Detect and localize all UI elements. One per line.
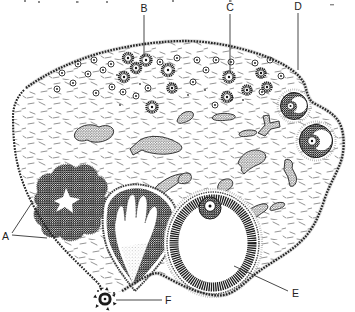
primordial-follicle-nucleus <box>110 63 112 65</box>
primordial-follicle-nucleus <box>93 59 95 61</box>
label-c: C <box>226 1 234 13</box>
primordial-follicle-nucleus <box>147 87 149 89</box>
primordial-follicle-nucleus <box>111 86 113 88</box>
primordial-follicle-nucleus <box>254 62 256 64</box>
cropped-text-fragments <box>24 0 334 5</box>
primordial-follicle-nucleus <box>135 95 137 97</box>
primary-follicle-nucleus <box>171 87 173 89</box>
primary-follicle-nucleus <box>123 76 125 78</box>
primary-follicle-nucleus <box>246 89 248 91</box>
graafian-oocyte-nucleus <box>209 205 212 208</box>
stroma-granule <box>116 74 118 76</box>
label-b: B <box>140 2 147 14</box>
label-d: D <box>294 0 302 12</box>
primordial-follicle-nucleus <box>77 63 79 65</box>
stroma-granule <box>139 83 141 85</box>
primordial-follicle-nucleus <box>214 104 216 106</box>
primary-follicle-nucleus <box>226 96 228 98</box>
primordial-follicle-nucleus <box>215 59 217 61</box>
stigma-bead <box>97 290 99 292</box>
primordial-follicle-nucleus <box>95 92 97 94</box>
stroma-granule <box>187 94 189 96</box>
primordial-follicle-nucleus <box>102 69 104 71</box>
primordial-follicle-nucleus <box>176 57 178 59</box>
stigma-bead <box>113 292 115 294</box>
label-e: E <box>292 287 299 299</box>
primary-follicle-nucleus <box>228 76 230 78</box>
primary-follicle-nucleus <box>145 59 147 61</box>
primordial-follicle-nucleus <box>159 61 161 63</box>
primary-follicle-nucleus <box>260 72 262 74</box>
label-f: F <box>165 294 171 306</box>
primordial-follicle-nucleus <box>280 75 282 77</box>
stroma-granule <box>242 99 244 101</box>
primary-follicle-nucleus <box>167 69 169 71</box>
primordial-follicle-nucleus <box>261 91 263 93</box>
secondary-oocyte-nucleus <box>290 105 292 107</box>
primordial-follicle-nucleus <box>192 81 194 83</box>
stroma-granule <box>204 89 206 91</box>
diagram-canvas: A B C D E F <box>0 0 355 312</box>
primordial-follicle-nucleus <box>61 72 63 74</box>
vessel <box>74 125 113 142</box>
vessel <box>212 113 235 120</box>
primordial-follicle-nucleus <box>72 82 74 84</box>
primary-follicle-nucleus <box>151 106 153 108</box>
primordial-follicle-nucleus <box>56 88 58 90</box>
primary-follicle-nucleus <box>135 67 137 69</box>
primordial-follicle-nucleus <box>196 59 198 61</box>
primordial-follicle-nucleus <box>87 73 89 75</box>
primordial-follicle-nucleus <box>122 91 124 93</box>
primary-follicle-nucleus <box>266 86 268 88</box>
secondary-oocyte-nucleus <box>311 140 313 142</box>
corpus-albicans <box>34 164 108 240</box>
label-a: A <box>2 230 9 242</box>
ovary-histology-diagram: A B C D E F <box>0 0 355 312</box>
primordial-follicle-nucleus <box>205 69 207 71</box>
primary-follicle-nucleus <box>127 57 129 59</box>
stroma-granule <box>119 104 121 106</box>
ovum-nucleus <box>104 298 107 301</box>
